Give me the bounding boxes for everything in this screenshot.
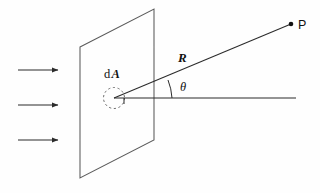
angle-arc xyxy=(168,80,172,98)
area-element-label-symbol: A xyxy=(111,67,120,81)
surface-plane xyxy=(80,9,154,178)
physics-diagram-canvas: d A R θ P xyxy=(0,0,320,193)
radiation-geometry-figure: d A R θ P xyxy=(0,0,320,193)
point-label-p: P xyxy=(298,18,306,32)
incident-radiation-arrows xyxy=(18,70,58,140)
distance-label-R: R xyxy=(177,50,187,65)
ray-to-point-p xyxy=(114,24,291,98)
angle-label-theta: θ xyxy=(180,80,186,94)
point-p-marker xyxy=(289,22,294,27)
area-element-label-prefix: d xyxy=(104,67,111,81)
